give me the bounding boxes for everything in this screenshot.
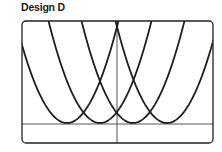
parabolas — [10, 0, 222, 123]
parabola-4-curve — [10, 0, 222, 123]
calculator-screen — [0, 0, 222, 152]
parabola-1-curve — [10, 0, 222, 123]
parabola-3-curve — [10, 0, 222, 123]
parabola-2-curve — [10, 0, 222, 123]
